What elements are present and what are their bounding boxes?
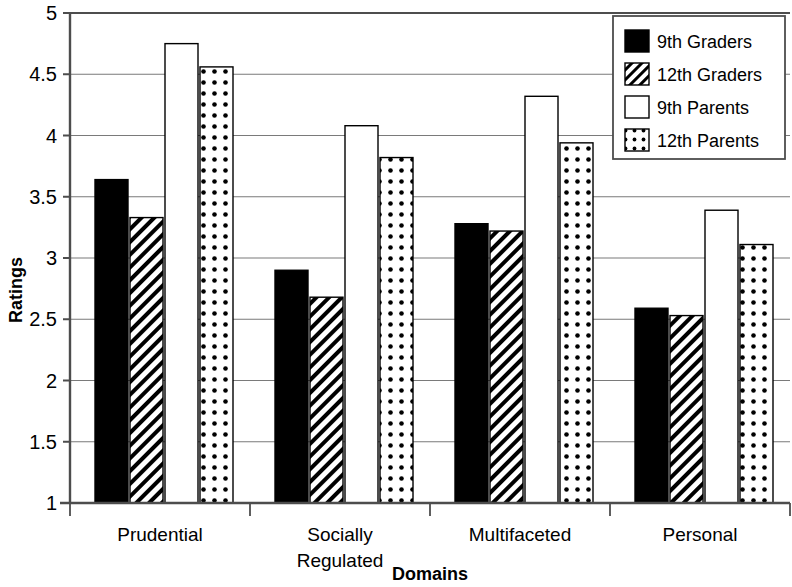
bar (200, 67, 233, 503)
legend-label: 12th Graders (657, 65, 762, 85)
bar (705, 210, 738, 503)
x-axis-title: Domains (392, 564, 468, 584)
bar (740, 245, 773, 503)
bar (310, 297, 343, 503)
legend-label: 9th Graders (657, 32, 752, 52)
y-tick-label: 1 (46, 492, 57, 514)
y-tick-label: 4 (46, 125, 57, 147)
y-tick-label: 1.5 (29, 431, 57, 453)
bar (380, 158, 413, 503)
x-category-label: Socially (307, 524, 373, 545)
legend-swatch (625, 96, 649, 118)
bar (490, 231, 523, 503)
x-category-label: Regulated (297, 550, 384, 571)
y-tick-label: 3 (46, 247, 57, 269)
bar (345, 126, 378, 503)
legend-swatch (625, 129, 649, 151)
bar (275, 270, 308, 503)
x-category-label: Prudential (117, 524, 203, 545)
y-tick-label: 2.5 (29, 308, 57, 330)
y-tick-label: 2 (46, 370, 57, 392)
bar (455, 224, 488, 503)
bar (95, 180, 128, 503)
bar (635, 308, 668, 503)
legend-swatch (625, 30, 649, 52)
y-tick-labels: 54.543.532.521.51 (29, 2, 57, 514)
bar (165, 44, 198, 503)
legend: 9th Graders12th Graders9th Parents12th P… (613, 16, 785, 159)
x-category-label: Personal (663, 524, 738, 545)
bar (525, 96, 558, 503)
bar (670, 316, 703, 503)
legend-swatch (625, 63, 649, 85)
x-axis (60, 503, 790, 516)
y-tick-label: 4.5 (29, 63, 57, 85)
x-category-label: Multifaceted (469, 524, 571, 545)
legend-label: 12th Parents (657, 131, 759, 151)
y-axis-title: Ratings (6, 257, 26, 323)
bar (130, 218, 163, 503)
bar (560, 143, 593, 503)
y-axis (63, 13, 70, 503)
y-tick-label: 3.5 (29, 186, 57, 208)
legend-label: 9th Parents (657, 98, 749, 118)
bar-chart: 54.543.532.521.51 PrudentialSociallyRegu… (0, 0, 792, 587)
chart-canvas: 54.543.532.521.51 PrudentialSociallyRegu… (0, 0, 792, 587)
y-tick-label: 5 (46, 2, 57, 24)
